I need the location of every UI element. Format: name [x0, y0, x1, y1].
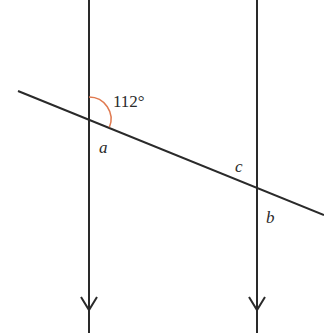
- transversal-line: [18, 91, 324, 215]
- label-b: b: [266, 208, 275, 227]
- angle-label: 112°: [113, 92, 145, 111]
- angle-arc: [89, 97, 111, 127]
- label-a: a: [99, 138, 108, 157]
- label-c: c: [235, 157, 243, 176]
- diagram-canvas: 112° a c b: [0, 0, 324, 333]
